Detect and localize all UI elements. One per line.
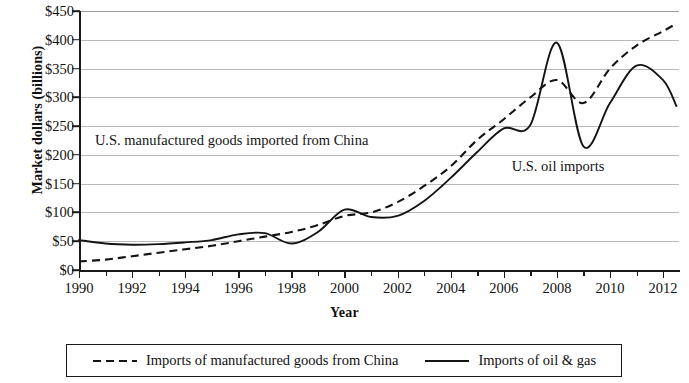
x-axis-tick: [610, 271, 611, 278]
x-axis-tick: [132, 271, 133, 278]
y-axis-tick-label: $50: [52, 233, 74, 250]
x-axis-minor-tick: [212, 271, 213, 276]
x-axis-tick: [557, 271, 558, 278]
x-axis-tick: [185, 271, 186, 278]
annotation-oil-line: U.S. oil imports: [512, 158, 605, 175]
legend-entry-oil: Imports of oil & gas: [424, 352, 596, 369]
x-axis-tick: [291, 271, 292, 278]
x-axis-minor-tick: [159, 271, 160, 276]
x-axis-tick: [504, 271, 505, 278]
chart-legend: Imports of manufactured goods from China…: [66, 344, 622, 377]
y-axis-tick-label: $450: [45, 3, 74, 20]
x-axis-tick-label: 1992: [118, 280, 147, 297]
x-axis-tick-label: 2004: [436, 280, 465, 297]
y-axis-tick-label: $400: [45, 31, 74, 48]
y-axis-tick: [72, 68, 80, 70]
y-axis-tick: [72, 240, 80, 242]
x-axis-tick-label: 1996: [224, 280, 253, 297]
x-axis-title: Year: [0, 305, 689, 321]
x-axis-minor-tick: [318, 271, 319, 276]
x-axis-tick-label: 1994: [171, 280, 200, 297]
y-axis-tick: [72, 125, 80, 127]
y-axis-tick-labels: $0$50$100$150$200$250$300$350$400$450: [18, 0, 74, 290]
legend-label-oil: Imports of oil & gas: [478, 352, 596, 369]
y-axis-tick: [72, 97, 80, 99]
y-axis-tick-label: $250: [45, 118, 74, 135]
legend-swatch-dashed-icon: [92, 355, 138, 367]
y-axis-tick-label: $150: [45, 175, 74, 192]
y-axis-tick: [72, 154, 80, 156]
y-axis-tick: [72, 212, 80, 214]
legend-label-china: Imports of manufactured goods from China: [146, 352, 398, 369]
x-axis-minor-tick: [106, 271, 107, 276]
legend-swatch-solid-icon: [424, 355, 470, 367]
x-axis-tick-label: 1990: [65, 280, 94, 297]
x-axis-minor-tick: [265, 271, 266, 276]
x-axis-minor-tick: [583, 271, 584, 276]
x-axis-minor-tick: [477, 271, 478, 276]
x-axis-tick: [451, 271, 452, 278]
annotation-china-line: U.S. manufactured goods imported from Ch…: [95, 132, 368, 149]
y-axis-tick-label: $100: [45, 204, 74, 221]
x-axis-tick-label: 1998: [277, 280, 306, 297]
x-axis-tick: [344, 271, 345, 278]
y-axis-tick-label: $200: [45, 146, 74, 163]
x-axis-tick-label: 2012: [649, 280, 678, 297]
y-axis-tick-label: $350: [45, 60, 74, 77]
x-axis-tick-label: 2010: [595, 280, 624, 297]
y-axis-tick-label: $300: [45, 89, 74, 106]
chart-figure: Market dollars (billions) $0$50$100$150$…: [0, 0, 689, 383]
x-axis-tick-label: 2002: [383, 280, 412, 297]
y-axis-tick: [72, 39, 80, 41]
x-axis-minor-tick: [371, 271, 372, 276]
y-axis-tick: [72, 183, 80, 185]
x-axis-minor-tick: [424, 271, 425, 276]
x-axis-tick: [79, 271, 80, 278]
x-axis-line: [79, 270, 680, 272]
legend-entry-china: Imports of manufactured goods from China: [92, 352, 398, 369]
x-axis-tick-label: 2000: [330, 280, 359, 297]
y-axis-line: [79, 11, 81, 271]
x-axis-tick-label: 2008: [542, 280, 571, 297]
x-axis-tick-label: 2006: [489, 280, 518, 297]
x-axis-tick: [238, 271, 239, 278]
x-axis-minor-tick: [530, 271, 531, 276]
x-axis-tick: [663, 271, 664, 278]
x-axis-tick: [398, 271, 399, 278]
x-axis-minor-tick: [637, 271, 638, 276]
y-axis-tick: [72, 10, 80, 12]
